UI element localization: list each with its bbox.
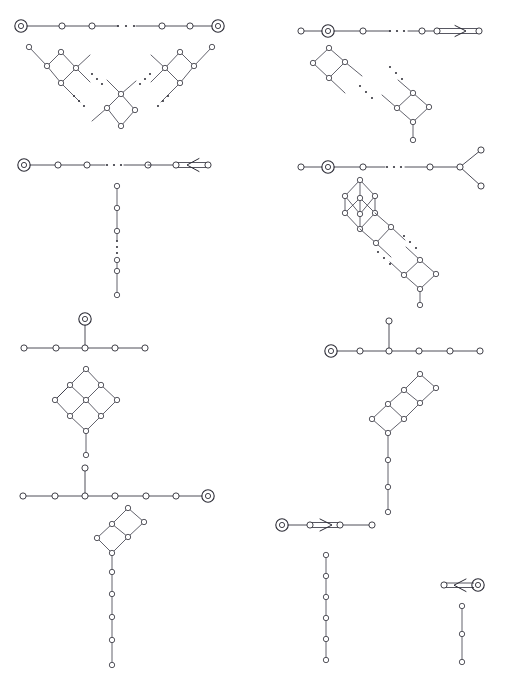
hasse-node (109, 521, 114, 526)
panel-4-dynkin (298, 147, 484, 189)
dynkin-node (173, 493, 179, 499)
hasse-node (118, 123, 123, 128)
hasse-node (417, 257, 422, 262)
dynkin-node (369, 522, 375, 528)
panel-3-hasse (114, 183, 119, 297)
hasse-node (385, 401, 390, 406)
hasse-node (401, 416, 406, 421)
hasse-node (94, 535, 99, 540)
hasse-node (342, 59, 347, 64)
panel-7-dynkin (20, 465, 214, 502)
marked-node (202, 490, 214, 502)
double-bond-arrow-right-icon (434, 26, 482, 37)
dynkin-node (52, 493, 58, 499)
marked-node (322, 161, 334, 173)
hasse-node (459, 603, 464, 608)
hasse-node (209, 44, 214, 49)
hasse-node (177, 49, 182, 54)
hasse-node (357, 177, 362, 182)
hasse-node (83, 428, 88, 433)
dynkin-node (112, 345, 118, 351)
dynkin-node (298, 164, 304, 170)
hasse-node (401, 272, 406, 277)
marked-node (79, 313, 91, 325)
hasse-node (417, 400, 422, 405)
hasse-node (323, 594, 328, 599)
hasse-node (417, 371, 422, 376)
hasse-node (459, 659, 464, 664)
hasse-node (67, 382, 72, 387)
marked-node (212, 20, 224, 32)
hasse-node (83, 397, 88, 402)
dynkin-node (82, 345, 88, 351)
hasse-node (109, 569, 114, 574)
dynkin-node (159, 23, 165, 29)
dynkin-node (82, 465, 88, 471)
dynkin-node (84, 162, 90, 168)
panel-6-hasse (369, 371, 438, 514)
hasse-node (114, 257, 119, 262)
hasse-node (114, 228, 119, 233)
marked-node (472, 579, 484, 591)
panel-2 (298, 25, 482, 143)
dynkin-node (82, 493, 88, 499)
hasse-node (357, 195, 362, 200)
panel-5 (21, 313, 148, 458)
hasse-node (177, 80, 182, 85)
dynkin-node (386, 318, 392, 324)
ellipsis (139, 73, 151, 85)
hasse-node (141, 519, 146, 524)
ellipsis (91, 73, 103, 85)
dynkin-node (89, 23, 95, 29)
panel-5-dynkin (21, 313, 148, 351)
hasse-node (104, 105, 109, 110)
hasse-node (410, 137, 415, 142)
ellipsis (359, 85, 373, 99)
ellipsis (116, 240, 118, 254)
hasse-node (388, 224, 393, 229)
hasse-node (114, 183, 119, 188)
dynkin-node (187, 23, 193, 29)
dynkin-node (360, 164, 366, 170)
hasse-node (58, 80, 63, 85)
double-bond-arrow-left-icon (441, 579, 474, 592)
hasse-node (342, 193, 347, 198)
hasse-node (114, 205, 119, 210)
hasse-node (44, 63, 49, 68)
ellipsis (386, 166, 402, 168)
hasse-node (114, 397, 119, 402)
dynkin-node (416, 348, 422, 354)
hasse-node (125, 505, 130, 510)
panel-3 (18, 159, 211, 298)
dynkin-node (20, 493, 26, 499)
marked-node (325, 345, 337, 357)
figure-plate (0, 0, 507, 684)
panel-4 (298, 147, 484, 308)
hasse-node (385, 430, 390, 435)
panel-3-dynkin (18, 159, 211, 172)
dynkin-node (298, 28, 304, 34)
panel-8-hasse (323, 552, 328, 662)
hasse-node (323, 615, 328, 620)
hasse-node (373, 240, 378, 245)
panel-9-dynkin (441, 579, 484, 592)
ellipsis (117, 25, 135, 27)
hasse-node (52, 397, 57, 402)
ellipsis (157, 95, 169, 107)
dynkin-node (53, 345, 59, 351)
dynkin-node (59, 23, 65, 29)
hasse-node (109, 550, 114, 555)
panel-9-hasse (459, 603, 464, 664)
panel-7 (20, 465, 214, 668)
panel-1 (15, 20, 224, 129)
marked-node (18, 159, 30, 171)
hasse-node (109, 591, 114, 596)
hasse-node (459, 631, 464, 636)
hasse-node (385, 457, 390, 462)
hasse-node (109, 614, 114, 619)
hasse-node (417, 286, 422, 291)
hasse-node (394, 105, 399, 110)
hasse-node (323, 573, 328, 578)
hasse-node (323, 657, 328, 662)
dynkin-node (447, 348, 453, 354)
